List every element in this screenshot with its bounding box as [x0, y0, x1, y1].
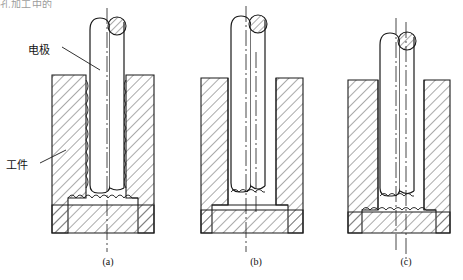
electrode-section-a — [108, 17, 126, 35]
electrode-body-b — [231, 16, 251, 192]
label-workpiece: 工件 — [6, 156, 28, 172]
caption-figure-c: (c) — [386, 256, 426, 267]
electrode-section-c — [398, 32, 416, 50]
caption-figure-a: (a) — [88, 256, 128, 267]
workpiece-bottom-c — [348, 212, 450, 233]
edm-figure-group — [0, 0, 463, 280]
workpiece-left-c — [348, 80, 378, 233]
workpiece-bottom-a — [52, 205, 154, 233]
caption-figure-b: (b) — [236, 256, 276, 267]
figure-a — [52, 8, 154, 252]
workpiece-bottom-b — [201, 210, 303, 233]
figure-b — [201, 6, 303, 252]
figure-c — [348, 18, 450, 262]
electrode-body-c — [380, 33, 400, 196]
label-electrode: 电极 — [28, 41, 50, 57]
electrode-section-b — [249, 15, 267, 33]
